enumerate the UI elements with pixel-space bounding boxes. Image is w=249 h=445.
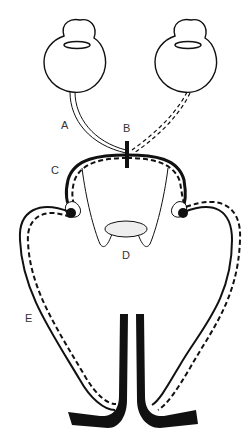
label-d: D <box>122 250 130 261</box>
label-b: B <box>123 123 130 134</box>
label-e: E <box>25 313 32 324</box>
label-c: C <box>51 165 59 176</box>
loop-e-left <box>20 207 116 410</box>
lower-columns <box>68 314 198 428</box>
pathway-dashed <box>132 92 190 153</box>
structure-d <box>105 221 147 237</box>
side-lobes <box>65 202 186 218</box>
junction-blobs <box>66 208 188 218</box>
loop-e-right <box>152 202 240 410</box>
left-eye <box>44 20 106 93</box>
pathway-a-solid <box>70 92 126 153</box>
pathway-diagram: A B C D E <box>0 0 249 445</box>
right-eye <box>155 20 217 93</box>
label-a: A <box>61 120 68 131</box>
diagram-canvas <box>0 0 249 445</box>
